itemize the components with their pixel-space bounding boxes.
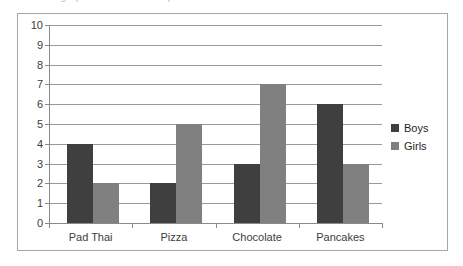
legend-item-boys[interactable]: Boys: [391, 119, 446, 137]
y-axis-tick-label: 4: [37, 138, 43, 150]
bar-girls-pad-thai[interactable]: [93, 183, 119, 223]
bar-boys-chocolate[interactable]: [234, 164, 260, 223]
x-tick-mark: [49, 223, 50, 228]
caption-strip: Look at the graph and answer the questio…: [0, 0, 463, 11]
y-axis-tick-label: 7: [37, 78, 43, 90]
y-axis-tick-label: 9: [37, 39, 43, 51]
bar-group: [216, 25, 299, 223]
bar-group: [49, 25, 132, 223]
y-axis-tick-label: 10: [31, 19, 43, 31]
x-axis-label-pizza: Pizza: [160, 231, 187, 243]
x-axis-label-chocolate: Chocolate: [232, 231, 282, 243]
caption-text: Look at the graph and answer the questio…: [6, 0, 242, 2]
x-axis: Pad ThaiPizzaChocolatePancakes: [49, 223, 382, 251]
bar-girls-chocolate[interactable]: [260, 84, 286, 223]
x-axis-label-pad-thai: Pad Thai: [69, 231, 113, 243]
y-axis-tick-label: 2: [37, 177, 43, 189]
legend-swatch-icon: [391, 142, 399, 150]
bar-boys-pancakes[interactable]: [317, 104, 343, 223]
legend-label: Boys: [404, 122, 428, 134]
x-axis-label-pancakes: Pancakes: [316, 231, 364, 243]
y-axis-tick-label: 3: [37, 158, 43, 170]
legend-item-girls[interactable]: Girls: [391, 137, 446, 155]
y-axis-tick-label: 8: [37, 59, 43, 71]
bar-boys-pizza[interactable]: [150, 183, 176, 223]
x-tick-mark: [382, 223, 383, 228]
bar-girls-pancakes[interactable]: [343, 164, 369, 223]
x-tick-mark: [132, 223, 133, 228]
x-tick-mark: [216, 223, 217, 228]
legend-swatch-icon: [391, 124, 399, 132]
y-axis-tick-label: 1: [37, 197, 43, 209]
chart-legend: BoysGirls: [391, 119, 446, 155]
x-tick-mark: [299, 223, 300, 228]
plot-area: 012345678910: [49, 25, 382, 223]
bar-group: [299, 25, 382, 223]
bar-girls-pizza[interactable]: [176, 124, 202, 223]
bars-layer: [49, 25, 382, 223]
chart-frame: 012345678910 Pad ThaiPizzaChocolatePanca…: [17, 13, 448, 251]
legend-label: Girls: [404, 140, 427, 152]
y-axis-tick-label: 0: [37, 217, 43, 229]
y-axis-tick-label: 5: [37, 118, 43, 130]
y-axis-tick-label: 6: [37, 98, 43, 110]
bar-group: [132, 25, 215, 223]
bar-boys-pad-thai[interactable]: [67, 144, 93, 223]
